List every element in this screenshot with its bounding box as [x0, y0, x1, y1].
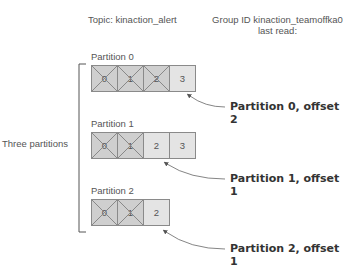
callout-arrows — [0, 0, 349, 273]
arrow-partition-0 — [190, 96, 225, 107]
callout-partition-0: Partition 0, offset 2 — [230, 100, 349, 126]
callout-partition-1: Partition 1, offset 1 — [230, 172, 349, 198]
callout-partition-2: Partition 2, offset 1 — [230, 242, 349, 268]
arrow-partition-1 — [167, 164, 225, 179]
arrow-partition-2 — [166, 232, 225, 249]
